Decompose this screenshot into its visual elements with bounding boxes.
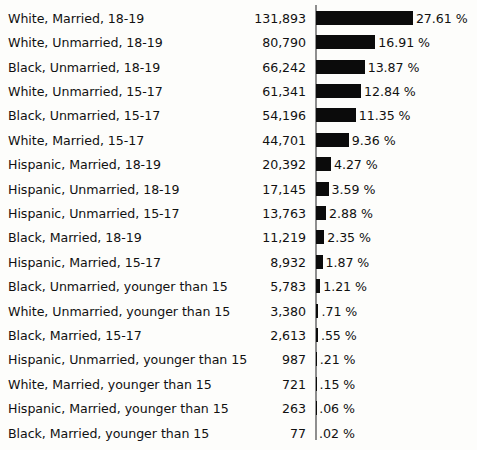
bar bbox=[316, 255, 323, 269]
count-value: 8,932 bbox=[150, 254, 306, 269]
count-value: 11,219 bbox=[150, 230, 306, 245]
bar bbox=[316, 304, 318, 318]
bar bbox=[316, 328, 318, 342]
bar bbox=[316, 35, 375, 49]
chart-row: Hispanic, Married, 15-178,9321.87 % bbox=[0, 250, 477, 275]
category-label: White, Married, 15-17 bbox=[8, 132, 144, 147]
bar bbox=[316, 352, 317, 366]
chart-row: Black, Married, 15-172,613.55 % bbox=[0, 323, 477, 348]
count-value: 61,341 bbox=[150, 83, 306, 98]
count-value: 5,783 bbox=[150, 279, 306, 294]
count-value: 17,145 bbox=[150, 181, 306, 196]
category-label: White, Unmarried, 15-17 bbox=[8, 83, 163, 98]
percent-label: .71 % bbox=[321, 303, 357, 318]
bar bbox=[316, 60, 365, 74]
count-value: 721 bbox=[150, 376, 306, 391]
count-value: 80,790 bbox=[150, 35, 306, 50]
category-label: Black, Married, 18-19 bbox=[8, 230, 142, 245]
chart-row: Black, Married, younger than 1577.02 % bbox=[0, 420, 477, 445]
percent-label: 11.35 % bbox=[359, 108, 411, 123]
percent-label: .02 % bbox=[319, 425, 355, 440]
percent-label: 3.59 % bbox=[332, 181, 376, 196]
chart-row: Hispanic, Unmarried, younger than 15987.… bbox=[0, 347, 477, 372]
category-label: Black, Unmarried, 18-19 bbox=[8, 59, 160, 74]
count-value: 13,763 bbox=[150, 205, 306, 220]
chart-row: White, Unmarried, younger than 153,380.7… bbox=[0, 298, 477, 323]
category-label: Black, Unmarried, 15-17 bbox=[8, 108, 160, 123]
bar bbox=[316, 230, 324, 244]
bar bbox=[316, 182, 329, 196]
percent-label: .55 % bbox=[321, 327, 357, 342]
count-value: 2,613 bbox=[150, 327, 306, 342]
count-value: 263 bbox=[150, 401, 306, 416]
chart-row: White, Unmarried, 18-1980,79016.91 % bbox=[0, 30, 477, 55]
percent-label: 13.87 % bbox=[368, 59, 420, 74]
bar bbox=[316, 11, 413, 25]
percent-label: 2.88 % bbox=[329, 205, 373, 220]
percent-label: .06 % bbox=[319, 401, 355, 416]
percent-label: .15 % bbox=[320, 376, 356, 391]
percent-label: 9.36 % bbox=[352, 132, 396, 147]
category-label: Hispanic, Married, 18-19 bbox=[8, 157, 161, 172]
count-value: 987 bbox=[150, 352, 306, 367]
percent-label: 16.91 % bbox=[378, 35, 430, 50]
chart-row: White, Unmarried, 15-1761,34112.84 % bbox=[0, 79, 477, 104]
chart-row: Black, Unmarried, 18-1966,24213.87 % bbox=[0, 54, 477, 79]
count-value: 66,242 bbox=[150, 59, 306, 74]
chart-row: White, Married, 18-19131,89327.61 % bbox=[0, 6, 477, 31]
percent-label: 1.87 % bbox=[326, 254, 370, 269]
count-value: 44,701 bbox=[150, 132, 306, 147]
percent-label: 1.21 % bbox=[323, 279, 367, 294]
horizontal-bar-chart: White, Married, 18-19131,89327.61 %White… bbox=[0, 0, 477, 450]
chart-row: Hispanic, Married, 18-1920,3924.27 % bbox=[0, 152, 477, 177]
category-label: Hispanic, Married, 15-17 bbox=[8, 254, 161, 269]
percent-label: 2.35 % bbox=[327, 230, 371, 245]
bar bbox=[316, 377, 317, 391]
category-label: White, Married, 18-19 bbox=[8, 10, 144, 25]
chart-row: Hispanic, Unmarried, 15-1713,7632.88 % bbox=[0, 201, 477, 226]
category-label: White, Unmarried, 18-19 bbox=[8, 35, 163, 50]
bar bbox=[316, 157, 331, 171]
percent-label: 12.84 % bbox=[364, 83, 416, 98]
chart-row: Hispanic, Unmarried, 18-1917,1453.59 % bbox=[0, 176, 477, 201]
count-value: 77 bbox=[150, 425, 306, 440]
chart-row: White, Married, younger than 15721.15 % bbox=[0, 372, 477, 397]
category-label: Black, Married, 15-17 bbox=[8, 327, 142, 342]
chart-row: Black, Unmarried, younger than 155,7831.… bbox=[0, 274, 477, 299]
count-value: 131,893 bbox=[150, 10, 306, 25]
percent-label: .21 % bbox=[320, 352, 356, 367]
bar bbox=[316, 206, 326, 220]
bar bbox=[316, 279, 320, 293]
bar bbox=[316, 133, 349, 147]
chart-row: Black, Unmarried, 15-1754,19611.35 % bbox=[0, 103, 477, 128]
bar bbox=[316, 84, 361, 98]
chart-row: Black, Married, 18-1911,2192.35 % bbox=[0, 225, 477, 250]
chart-row: Hispanic, Married, younger than 15263.06… bbox=[0, 396, 477, 421]
percent-label: 27.61 % bbox=[416, 10, 468, 25]
percent-label: 4.27 % bbox=[334, 157, 378, 172]
chart-row: White, Married, 15-1744,7019.36 % bbox=[0, 128, 477, 153]
count-value: 20,392 bbox=[150, 157, 306, 172]
count-value: 54,196 bbox=[150, 108, 306, 123]
count-value: 3,380 bbox=[150, 303, 306, 318]
bar bbox=[316, 108, 356, 122]
